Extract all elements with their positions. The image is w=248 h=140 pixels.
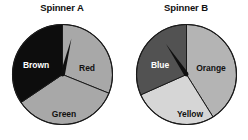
spinner-b-title: Spinner B [124,2,248,13]
spinner-b-svg [135,23,238,126]
spinner-b-hub [185,73,189,77]
spinner-a-hub [61,73,65,77]
spinner-a-title: Spinner A [0,2,124,13]
spinners-figure: Spinner A Red Green Brown Spinner B Oran… [0,0,248,140]
spinner-a-svg [11,23,114,126]
spinner-b-wheel[interactable]: Orange Yellow Blue [135,23,238,126]
spinner-a-wheel[interactable]: Red Green Brown [11,23,114,126]
spinner-a: Spinner A Red Green Brown [0,0,124,140]
spinner-b: Spinner B Orange Yellow Blue [124,0,248,140]
